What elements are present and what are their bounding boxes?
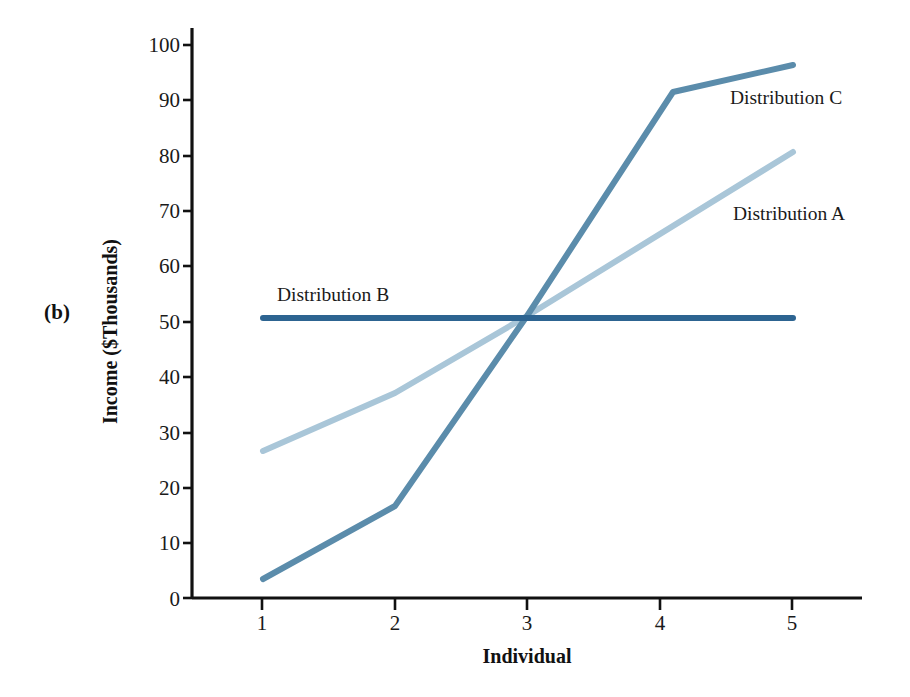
figure-panel-b: (b) Income ($Thousands) Individual 100 9…: [0, 0, 910, 697]
x-axis-ticks: [262, 598, 792, 610]
series-label-distribution-a: Distribution A: [733, 204, 845, 224]
series-label-distribution-c: Distribution C: [730, 88, 842, 108]
series-line-distribution-c: [263, 65, 793, 579]
series-label-distribution-b: Distribution B: [277, 285, 389, 305]
